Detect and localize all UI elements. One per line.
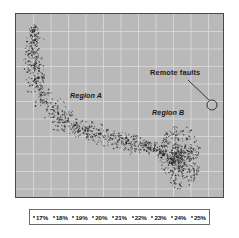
legend-entry[interactable]: 18% — [53, 214, 68, 221]
dot-marker — [132, 216, 134, 218]
dot-marker — [33, 216, 35, 218]
region-a-label: Region A — [70, 91, 102, 100]
legend-entry-label: 17% — [36, 214, 48, 221]
region-b-label: Region B — [152, 108, 184, 117]
legend-entry[interactable]: 24% — [171, 214, 186, 221]
figure-canvas: Remote faults Region A Region B 17%18%19… — [0, 0, 239, 238]
remote-faults-marker — [207, 100, 217, 110]
legend-entry-label: 18% — [56, 214, 68, 221]
legend-entry-label: 21% — [115, 214, 127, 221]
legend-entry-label: 23% — [154, 214, 166, 221]
legend-entry[interactable]: 21% — [112, 214, 127, 221]
legend-entry[interactable]: 20% — [92, 214, 107, 221]
legend-entry[interactable]: 19% — [72, 214, 87, 221]
legend-entry-label: 19% — [75, 214, 87, 221]
legend-entry-label: 24% — [174, 214, 186, 221]
dot-marker — [191, 216, 193, 218]
dot-marker — [92, 216, 94, 218]
dot-marker — [53, 216, 55, 218]
dot-marker — [72, 216, 74, 218]
remote-faults-label: Remote faults — [150, 68, 200, 77]
legend-entry[interactable]: 17% — [33, 214, 48, 221]
remote-faults-leader-line — [188, 80, 209, 100]
legend-entry[interactable]: 23% — [151, 214, 166, 221]
dot-marker — [171, 216, 173, 218]
legend-entry[interactable]: 25% — [191, 214, 206, 221]
dot-marker — [151, 216, 153, 218]
annotation-overlay — [16, 14, 223, 197]
legend: 17%18%19%20%21%22%23%24%25% — [29, 209, 210, 225]
dot-marker — [112, 216, 114, 218]
legend-entry-label: 20% — [95, 214, 107, 221]
legend-entry-label: 22% — [135, 214, 147, 221]
legend-entry-label: 25% — [194, 214, 206, 221]
scatter-plot-area — [15, 13, 224, 198]
legend-entry[interactable]: 22% — [132, 214, 147, 221]
